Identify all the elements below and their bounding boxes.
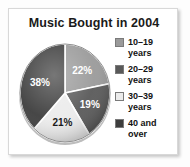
legend-label: 30–39 years xyxy=(128,91,153,112)
legend-item[interactable]: 20–29 years xyxy=(115,64,177,86)
chart-frame: Music Bought in 2004 22%19%21%38% xyxy=(8,8,178,155)
pie-chart-svg: 22%19%21%38% xyxy=(15,36,115,148)
pie-slice-label: 22% xyxy=(72,65,92,76)
legend-swatch-icon xyxy=(115,119,124,128)
legend-item[interactable]: 10–19 years xyxy=(115,37,177,59)
chart-title: Music Bought in 2004 xyxy=(9,16,179,30)
legend-swatch-icon xyxy=(115,65,124,74)
legend-label: 10–19 years xyxy=(128,37,153,58)
pie-chart: 22%19%21%38% xyxy=(15,36,115,148)
legend-label: 20–29 years xyxy=(128,64,153,85)
legend-swatch-icon xyxy=(115,38,124,47)
chart-figure: Music Bought in 2004 22%19%21%38% xyxy=(0,0,190,167)
legend-item[interactable]: 30–39 years xyxy=(115,91,177,113)
legend-label: 40 and over xyxy=(128,118,157,139)
chart-legend: 10–19 years 20–29 years 30–39 years 40 a… xyxy=(115,37,177,145)
pie-slice-label: 21% xyxy=(52,117,72,128)
pie-slice-label: 38% xyxy=(30,77,50,88)
legend-item[interactable]: 40 and over xyxy=(115,118,177,140)
pie-slice-label: 19% xyxy=(80,99,100,110)
legend-swatch-icon xyxy=(115,92,124,101)
